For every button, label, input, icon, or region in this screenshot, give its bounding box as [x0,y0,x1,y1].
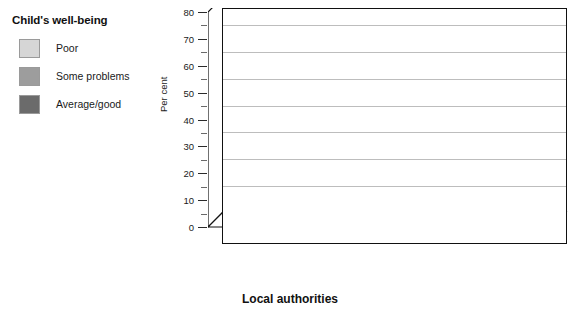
y-tick-label: 50 [183,87,194,98]
y-tick-label: 30 [183,141,194,152]
y-minor-tick-mark [201,25,207,26]
legend-label-some-problems: Some problems [56,70,130,82]
plot-area: Per cent 01020304050607080 [160,8,572,260]
y-minor-tick-mark [201,79,207,80]
y-tick-label: 0 [189,222,194,233]
legend-label-poor: Poor [56,42,78,54]
y-tick-label: 10 [183,195,194,206]
x-axis-category-labels [160,262,572,292]
y-tick-mark [198,227,207,228]
legend-title: Child's well-being [12,14,172,26]
y-minor-tick-mark [201,160,207,161]
legend-label-average-good: Average/good [56,98,121,110]
legend-swatch-poor [19,39,40,58]
legend: Child's well-being Poor Some problems Av… [12,14,172,119]
y-tick-mark [198,200,207,201]
legend-item-some-problems: Some problems [12,63,172,89]
chart-canvas: Child's well-being Poor Some problems Av… [0,0,580,314]
y-minor-tick-mark [201,214,207,215]
y-tick-mark [198,39,207,40]
y-tick-mark [198,66,207,67]
y-axis-ticks [198,8,208,260]
y-tick-label: 40 [183,114,194,125]
y-minor-tick-mark [201,52,207,53]
y-minor-tick-mark [201,187,207,188]
legend-swatch-some-problems [19,67,40,86]
legend-item-poor: Poor [12,35,172,61]
y-axis-tick-labels: 01020304050607080 [170,8,194,260]
y-tick-mark [198,93,207,94]
y-tick-mark [198,173,207,174]
y-tick-mark [198,120,207,121]
legend-item-average-good: Average/good [12,91,172,117]
y-tick-mark [198,146,207,147]
y-tick-label: 70 [183,33,194,44]
chart-left-wall [208,8,223,260]
y-tick-label: 20 [183,168,194,179]
x-axis-title: Local authorities [0,292,580,306]
legend-swatch-average-good [19,95,40,114]
y-axis-title: Per cent [158,77,169,112]
y-tick-label: 60 [183,60,194,71]
y-tick-label: 80 [183,7,194,18]
y-minor-tick-mark [201,133,207,134]
y-minor-tick-mark [201,106,207,107]
bar-series-container [222,8,567,244]
y-tick-mark [198,12,207,13]
